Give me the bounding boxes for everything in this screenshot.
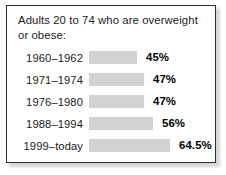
chart-card-canvas: Adults 20 to 74 who are overweight or ob… [0,0,226,175]
bar-rows: 1960–1962 45% 1971–1974 47% 1976–1980 47… [7,49,215,159]
table-row: 1960–1962 45% [7,49,215,71]
row-category-label: 1960–1962 [7,52,83,64]
chart-title: Adults 20 to 74 who are overweight or ob… [18,13,208,43]
row-category-label: 1988–1994 [7,118,83,130]
row-value-label: 64.5% [179,139,212,151]
row-value-label: 56% [162,117,185,129]
row-bar [89,73,144,86]
row-category-label: 1971–1974 [7,74,83,86]
row-category-label: 1976–1980 [7,96,83,108]
table-row: 1999–today 64.5% [7,137,215,159]
row-bar [89,95,144,108]
table-row: 1976–1980 47% [7,93,215,115]
row-value-label: 47% [153,73,176,85]
row-bar [89,117,153,130]
row-category-label: 1999–today [7,140,83,152]
row-value-label: 45% [146,51,169,63]
table-row: 1971–1974 47% [7,71,215,93]
chart-title-line-2: or obese: [18,29,66,41]
row-bar [89,139,170,152]
chart-title-line-1: Adults 20 to 74 who are overweight [18,14,198,26]
statistics-card: Adults 20 to 74 who are overweight or ob… [6,5,216,163]
table-row: 1988–1994 56% [7,115,215,137]
row-bar [89,51,137,64]
row-value-label: 47% [153,95,176,107]
